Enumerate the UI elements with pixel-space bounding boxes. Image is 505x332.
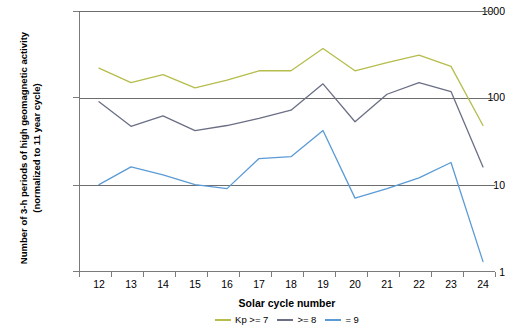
legend-label-1: >= 8 [297,314,316,325]
legend-item-0[interactable]: Kp >= 7 [215,314,268,325]
x-tick-mark-11 [431,272,432,277]
x-tick-mark-6 [271,272,272,277]
x-tick-mark-4 [207,272,208,277]
x-tick-mark-7 [303,272,304,277]
series-line-0 [99,48,483,125]
x-tick-label-14: 14 [148,278,178,290]
legend-swatch-0 [215,319,231,321]
chart-legend: Kp >= 7>= 8= 9 [79,314,495,325]
x-tick-mark-10 [399,272,400,277]
x-axis-title: Solar cycle number [79,297,495,309]
x-tick-label-13: 13 [116,278,146,290]
x-tick-label-19: 19 [308,278,338,290]
x-tick-label-23: 23 [436,278,466,290]
series-lines-svg [79,11,495,272]
x-tick-mark-3 [175,272,176,277]
y-axis-title-line-1: Number of 3-h periods of high geomagneti… [18,32,29,264]
x-tick-label-22: 22 [404,278,434,290]
series-line-2 [99,131,483,262]
x-tick-mark-5 [239,272,240,277]
legend-item-1[interactable]: >= 8 [277,314,316,325]
x-tick-label-17: 17 [244,278,274,290]
y-axis-title-line-2: (normalized to 11 year cycle) [31,83,42,212]
legend-swatch-2 [325,319,341,321]
x-tick-label-24: 24 [468,278,498,290]
x-tick-label-15: 15 [180,278,210,290]
plot-area [79,11,495,272]
geomagnetic-activity-chart: Number of 3-h periods of high geomagneti… [0,0,505,332]
x-tick-mark-13 [495,272,496,277]
x-tick-mark-0 [79,272,80,277]
x-tick-mark-9 [367,272,368,277]
series-line-1 [99,83,483,167]
legend-label-2: = 9 [345,314,358,325]
x-tick-label-18: 18 [276,278,306,290]
x-tick-mark-1 [111,272,112,277]
x-tick-label-12: 12 [84,278,114,290]
legend-swatch-1 [277,319,293,321]
x-tick-label-16: 16 [212,278,242,290]
legend-item-2[interactable]: = 9 [325,314,358,325]
legend-label-0: Kp >= 7 [235,314,268,325]
x-tick-mark-2 [143,272,144,277]
x-tick-mark-12 [463,272,464,277]
x-tick-label-21: 21 [372,278,402,290]
x-tick-mark-8 [335,272,336,277]
x-tick-label-20: 20 [340,278,370,290]
y-axis-title-wrap: Number of 3-h periods of high geomagneti… [0,0,40,290]
y-axis-title: Number of 3-h periods of high geomagneti… [17,8,43,288]
